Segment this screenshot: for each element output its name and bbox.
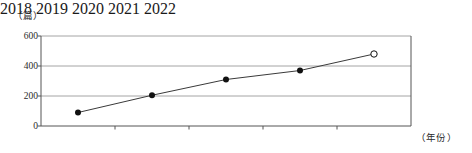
data-point-2018 [75,110,81,116]
data-markers [75,51,377,116]
series-line [78,54,374,113]
data-point-2022 [371,51,377,57]
data-line [78,54,374,113]
line-chart: （篇） （年份） 600 400 200 0 2018 2019 2020 20… [0,0,472,153]
data-point-2020 [223,77,229,83]
data-point-2021 [297,68,303,74]
gridlines [41,36,411,96]
data-point-2019 [149,92,155,98]
plot-area [0,0,472,153]
axis-ticks [38,36,338,130]
